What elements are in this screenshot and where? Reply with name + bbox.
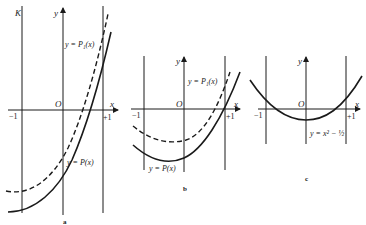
panel-b-p1-label: y = P₁(x) <box>187 77 218 86</box>
panel-b-tick-minus-one: −1 <box>132 111 141 120</box>
panel-a-y-label: y <box>53 8 58 18</box>
panel-b-p-label: y = P(x) <box>148 164 176 173</box>
panel-b-y-label: y <box>175 56 180 66</box>
panel-c-y-label: y <box>297 56 302 66</box>
panel-a-tick-plus-one: +1 <box>103 113 112 122</box>
panel-b-x-label: x <box>233 99 238 109</box>
panel-a <box>6 6 118 215</box>
panel-a-solid-curve <box>8 32 111 212</box>
panel-a-tick-minus-one: −1 <box>9 112 18 121</box>
panel-b-solid-curve <box>133 72 240 161</box>
panel-a-p1-label: y = P₁(x) <box>64 40 95 49</box>
panel-c-tick-minus-one: −1 <box>254 111 263 120</box>
panel-c-tick-plus-one: +1 <box>347 112 356 121</box>
panel-a-origin-label: O <box>55 99 62 109</box>
panel-a-corner-label: K <box>14 8 22 18</box>
panel-b-caption: b <box>183 185 187 193</box>
panel-a-p-label: y = P(x) <box>66 158 94 167</box>
panel-b-origin-label: O <box>176 99 183 109</box>
panel-a-x-label: x <box>109 99 114 109</box>
panel-b <box>131 56 240 172</box>
panel-c-curve-label: y = x² − ½ <box>309 129 344 138</box>
panel-b-tick-plus-one: +1 <box>226 112 235 121</box>
panel-c <box>250 56 362 144</box>
panel-c-x-label: x <box>354 99 359 109</box>
figure-canvas: K y x O −1 +1 y = P₁(x) y = P(x) a y x O… <box>0 0 366 225</box>
panel-a-caption: a <box>63 218 67 225</box>
panel-c-caption: c <box>305 175 308 183</box>
panel-c-origin-label: O <box>298 99 305 109</box>
